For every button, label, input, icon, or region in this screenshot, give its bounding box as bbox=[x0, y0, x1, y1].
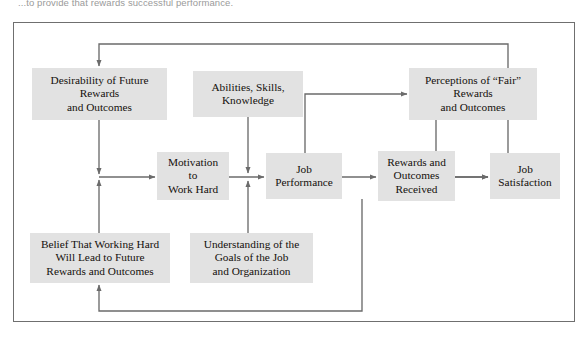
node-motivation[interactable]: Motivation to Work Hard bbox=[157, 152, 229, 200]
node-belief-label: Belief That Working Hard Will Lead to Fu… bbox=[41, 238, 159, 278]
node-desirability-label: Desirability of Future Rewards and Outco… bbox=[51, 74, 149, 114]
node-understanding[interactable]: Understanding of the Goals of the Job an… bbox=[190, 233, 313, 283]
node-job-satisfaction-label: Job Satisfaction bbox=[498, 163, 551, 190]
node-rewards-received-label: Rewards and Outcomes Received bbox=[387, 156, 446, 196]
node-desirability[interactable]: Desirability of Future Rewards and Outco… bbox=[32, 68, 167, 120]
figure-caption: ...to provide that rewards successful pe… bbox=[18, 0, 558, 9]
node-job-performance-label: Job Performance bbox=[275, 163, 333, 190]
node-perceptions[interactable]: Perceptions of “Fair” Rewards and Outcom… bbox=[409, 68, 537, 120]
node-abilities-label: Abilities, Skills, Knowledge bbox=[211, 81, 284, 108]
diagram-screenshot: ...to provide that rewards successful pe… bbox=[0, 0, 588, 346]
node-motivation-label: Motivation to Work Hard bbox=[168, 156, 218, 196]
node-job-satisfaction[interactable]: Job Satisfaction bbox=[490, 153, 560, 199]
node-job-performance[interactable]: Job Performance bbox=[266, 153, 342, 199]
node-perceptions-label: Perceptions of “Fair” Rewards and Outcom… bbox=[425, 74, 521, 114]
node-rewards-received[interactable]: Rewards and Outcomes Received bbox=[378, 151, 455, 201]
node-belief[interactable]: Belief That Working Hard Will Lead to Fu… bbox=[30, 233, 170, 283]
node-understanding-label: Understanding of the Goals of the Job an… bbox=[204, 238, 299, 278]
node-abilities[interactable]: Abilities, Skills, Knowledge bbox=[193, 71, 303, 117]
